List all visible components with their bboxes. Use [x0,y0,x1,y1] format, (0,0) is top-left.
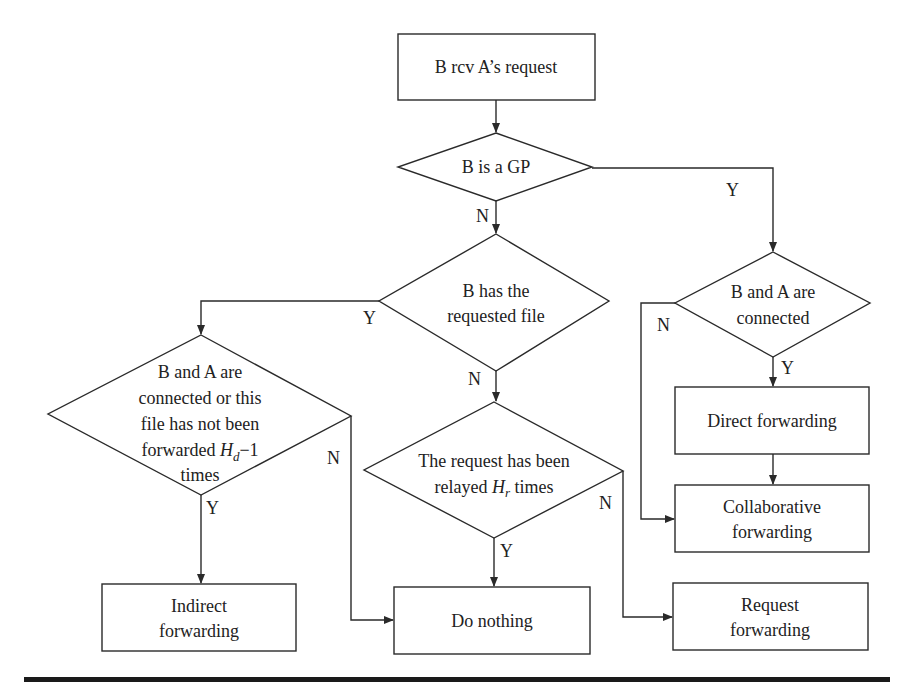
node-do-nothing-label: Do nothing [451,611,533,631]
node-request-label-2: forwarding [730,620,810,640]
bottom-rule [24,677,890,682]
edge-label-gp-yes: Y [726,180,739,200]
edge-label-relayed-yes: Y [500,541,513,561]
node-left-label-2: connected or this [139,388,262,408]
edge-label-connected-no: N [657,315,670,335]
node-direct-forwarding-label: Direct forwarding [707,411,836,431]
node-indirect-label-2: forwarding [159,621,239,641]
edge-gp-yes [592,168,773,251]
node-collaborative-label-1: Collaborative [723,497,821,517]
edge-connected-no [641,303,675,519]
node-is-gp-label: B is a GP [462,157,531,177]
node-has-file: B has the requested file [379,234,609,371]
node-collaborative-forwarding: Collaborative forwarding [675,485,869,552]
node-indirect-label-1: Indirect [171,596,227,616]
edge-label-left-no: N [327,448,340,468]
node-relayed-label-2: relayed Hr times [434,477,553,500]
node-start-label: B rcv A’s request [435,57,557,77]
node-start: B rcv A’s request [398,34,595,100]
node-relayed: The request has been relayed Hr times [364,402,623,538]
node-direct-forwarding: Direct forwarding [675,387,869,454]
edge-label-has-file-no: N [468,369,481,389]
edge-label-connected-yes: Y [781,358,794,378]
node-indirect-forwarding: Indirect forwarding [102,584,296,651]
edge-left-no [351,416,393,620]
edge-label-has-file-yes: Y [363,308,376,328]
edge-has-file-yes [201,301,379,334]
node-left-label-1: B and A are [158,362,242,382]
node-connected: B and A are connected [675,252,870,357]
node-connected-label-2: connected [737,308,810,328]
node-relayed-label-1: The request has been [418,451,569,471]
flowchart-canvas: B rcv A’s request B is a GP B has the re… [0,0,915,698]
node-is-gp: B is a GP [398,133,592,201]
edge-label-relayed-no: N [599,493,612,513]
edge-relayed-no [623,471,672,617]
node-left-label-5: times [181,465,220,485]
node-left-label-3: file has not been [141,414,259,434]
node-do-nothing: Do nothing [394,587,590,654]
node-request-forwarding: Request forwarding [673,583,868,650]
node-connected-or-not-forwarded: B and A are connected or this file has n… [48,335,351,495]
node-request-label-1: Request [741,595,799,615]
edge-label-gp-no: N [476,206,489,226]
node-connected-label-1: B and A are [731,282,815,302]
node-has-file-label-2: requested file [447,306,544,326]
node-has-file-label-1: B has the [463,281,530,301]
node-collaborative-label-2: forwarding [732,522,812,542]
edge-label-left-yes: Y [206,498,219,518]
